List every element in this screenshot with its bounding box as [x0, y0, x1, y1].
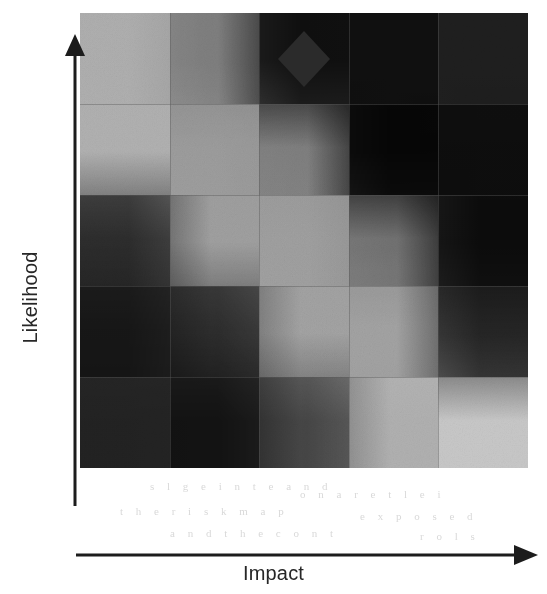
y-axis-label-text: Likelihood [19, 251, 42, 343]
bleed-through-text: r o l s [420, 530, 480, 542]
heatmap-cell [438, 104, 528, 195]
heatmap-cell [80, 13, 170, 104]
heatmap-cell [349, 195, 439, 286]
heatmap-cell [170, 104, 260, 195]
risk-heat-map-figure: s l g e i n t e a n do n a r e t l e it … [0, 0, 547, 594]
heatmap-cell [170, 286, 260, 377]
heatmap-cell [80, 195, 170, 286]
heatmap-cell [170, 13, 260, 104]
heatmap-cell [170, 195, 260, 286]
heatmap-cell [349, 13, 439, 104]
heatmap-grid [80, 13, 528, 468]
x-axis-label-text: Impact [243, 562, 304, 584]
heatmap-cell [438, 13, 528, 104]
heatmap-cell [259, 104, 349, 195]
heatmap-cell [438, 286, 528, 377]
y-axis-arrow [62, 34, 88, 506]
heatmap-cell [349, 104, 439, 195]
heatmap-cell [259, 195, 349, 286]
heatmap-cell [349, 377, 439, 468]
y-axis-label: Likelihood [0, 0, 60, 594]
x-axis-label: Impact [0, 562, 547, 585]
heatmap-cell [80, 377, 170, 468]
bleed-through-text: a n d t h e c o n t [170, 527, 338, 539]
heatmap-cell [170, 377, 260, 468]
heatmap-cell [259, 377, 349, 468]
bleed-through-text: s l g e i n t e a n d [150, 480, 333, 492]
heatmap-cell [80, 286, 170, 377]
heatmap-cell [259, 286, 349, 377]
heatmap-cell [438, 195, 528, 286]
heatmap-cell [80, 104, 170, 195]
heatmap-cell [259, 13, 349, 104]
bleed-through-text: t h e r i s k m a p [120, 505, 289, 517]
bleed-through-text: o n a r e t l e i [300, 488, 445, 500]
heatmap-cell [438, 377, 528, 468]
heatmap-plot-area [80, 13, 528, 468]
heatmap-cell [349, 286, 439, 377]
bleed-through-text: e x p o s e d [360, 510, 478, 522]
